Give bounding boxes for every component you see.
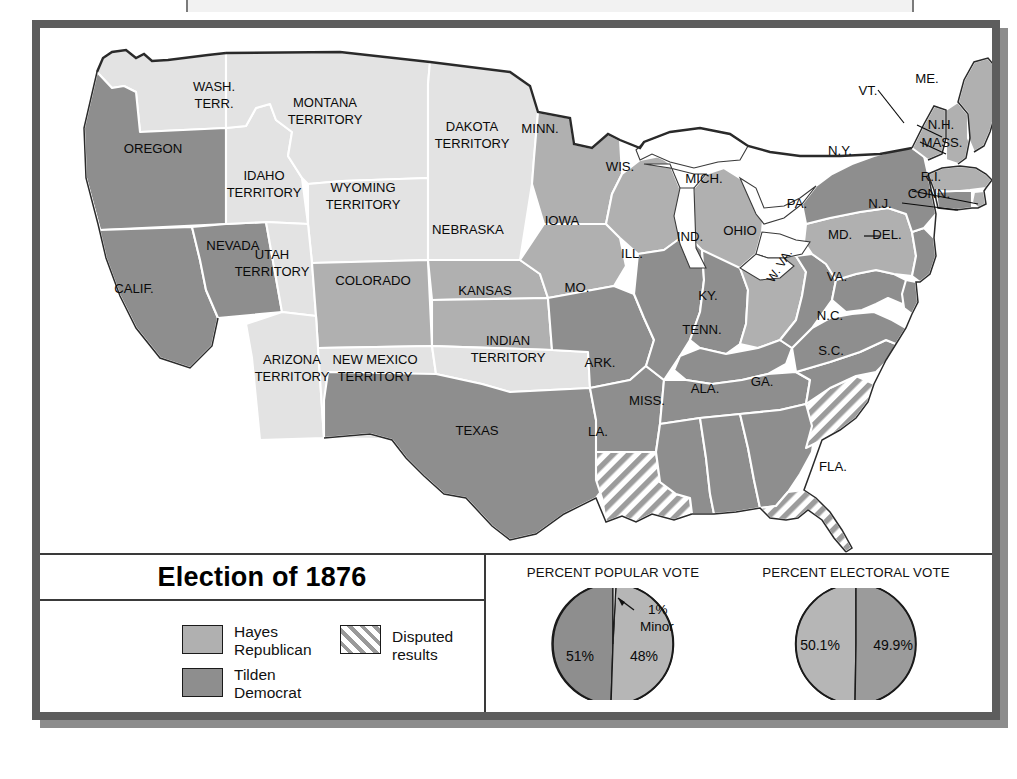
us-election-map-1876: WASH. TERR. OREGON CALIF. NEVADA IDAHO T…: [40, 28, 992, 553]
label-massachusetts: MASS.: [921, 135, 962, 150]
label-pennsylvania: PA.: [787, 196, 807, 211]
label-newmexico-line2: TERRITORY: [338, 369, 413, 384]
label-alabama-text: ALA.: [691, 381, 720, 396]
popular-vote-chart: PERCENT POPULAR VOTE 1% Minor 51%: [498, 565, 728, 704]
label-wash-terr-line1: WASH.: [193, 79, 235, 94]
label-illinois: ILL.: [621, 246, 643, 261]
label-oregon: OREGON: [124, 141, 183, 156]
label-mississippi: MISS.: [629, 393, 665, 408]
electoral-vote-chart: PERCENT ELECTORAL VOTE 50.1% 49.9%: [736, 565, 976, 704]
label-vermont: VT.: [858, 83, 877, 98]
label-maine: ME.: [915, 71, 938, 86]
label-arkansas: ARK.: [585, 355, 616, 370]
legend-swatch-disputed: [340, 625, 381, 654]
label-maryland: MD.: [828, 227, 852, 242]
label-northcarolina: N.C.: [817, 308, 843, 323]
label-montana-line1: MONTANA: [293, 95, 357, 110]
label-texas: TEXAS: [455, 423, 498, 438]
label-connecticut: CONN.: [908, 186, 951, 201]
label-louisiana: LA.: [588, 424, 608, 439]
window-title-bar: Election of 1876: [186, 0, 914, 12]
label-rhodeisland: R.I.: [921, 169, 942, 184]
label-idaho-line1: IDAHO: [243, 168, 284, 183]
legend-label-tilden: Tilden Democrat: [234, 666, 301, 701]
electoral-vote-pie: 50.1% 49.9%: [736, 588, 976, 704]
label-tennessee: TENN.: [682, 322, 722, 337]
legend-label-hayes-line2: Republican: [234, 641, 312, 659]
label-missouri: MO.: [565, 280, 590, 295]
label-minn: MINN.: [521, 121, 558, 136]
legend-label-hayes: Hayes Republican: [234, 623, 312, 658]
popular-vote-pie: 1% Minor 51% 48%: [498, 588, 728, 704]
pie-label-popular-minor-word: Minor: [640, 619, 674, 634]
label-newmexico-line1: NEW MEXICO: [332, 352, 417, 367]
legend-title-box: Election of 1876: [40, 555, 484, 601]
map-panel: WASH. TERR. OREGON CALIF. NEVADA IDAHO T…: [40, 28, 992, 553]
label-delaware: DEL.: [872, 227, 901, 242]
pie-label-popular-hayes: 48%: [630, 648, 658, 664]
legend-column: Election of 1876 Hayes Republican Tilden…: [40, 555, 486, 712]
state-new-jersey: [912, 228, 936, 282]
label-colorado: COLORADO: [335, 273, 410, 288]
pie-label-popular-minor-pct: 1%: [648, 602, 668, 617]
label-calif: CALIF.: [114, 281, 154, 296]
map-title: Election of 1876: [158, 562, 367, 593]
label-indiana: IND.: [677, 229, 703, 244]
label-arizona-line2: TERRITORY: [255, 369, 330, 384]
label-montana-line2: TERRITORY: [288, 112, 363, 127]
label-michigan: MICH.: [685, 171, 722, 186]
pie-label-electoral-hayes: 50.1%: [800, 637, 840, 653]
legend-label-tilden-line2: Democrat: [234, 684, 301, 702]
label-utah-line1: UTAH: [255, 247, 289, 262]
label-kansas: KANSAS: [458, 283, 512, 298]
legend-swatch-tilden: [182, 668, 223, 697]
label-southcarolina: S.C.: [818, 343, 844, 358]
legend-item-disputed: Disputed results: [340, 623, 484, 663]
legend-swatch-hayes: [182, 625, 223, 654]
label-nevada: NEVADA: [206, 238, 259, 253]
pie-slice-popular-tilden: [552, 588, 613, 700]
state-texas: [324, 372, 610, 540]
label-newhampshire: N.H.: [928, 117, 954, 132]
label-indian-line2: TERRITORY: [471, 350, 546, 365]
pie-label-popular-tilden: 51%: [566, 648, 594, 664]
legend-body: Hayes Republican Tilden Democrat Dispute…: [40, 601, 484, 701]
electoral-vote-caption: PERCENT ELECTORAL VOTE: [736, 565, 976, 580]
label-wyoming-line1: WYOMING: [331, 180, 396, 195]
legend-label-disputed: Disputed results: [392, 628, 484, 663]
legend-item-tilden: Tilden Democrat: [182, 666, 484, 701]
label-virginia: VA.: [827, 269, 847, 284]
label-nebraska: NEBRASKA: [432, 222, 504, 237]
legend-label-tilden-line1: Tilden: [234, 666, 301, 684]
label-newjersey: N.J.: [868, 196, 891, 211]
legend-and-charts-panel: Election of 1876 Hayes Republican Tilden…: [40, 553, 992, 712]
charts-column: PERCENT POPULAR VOTE 1% Minor 51%: [486, 555, 992, 712]
label-dakota-line1: DAKOTA: [446, 119, 499, 134]
label-wash-terr-line2: TERR.: [195, 96, 234, 111]
label-idaho-line2: TERRITORY: [227, 185, 302, 200]
label-kentucky: KY.: [698, 288, 718, 303]
pie-label-electoral-tilden: 49.9%: [873, 637, 913, 653]
label-utah-line2: TERRITORY: [235, 264, 310, 279]
label-arizona-line1: ARIZONA: [263, 352, 321, 367]
label-florida: FLA.: [819, 459, 847, 474]
label-georgia: GA.: [751, 374, 774, 389]
legend-label-hayes-line1: Hayes: [234, 623, 312, 641]
label-newyork: N.Y.: [828, 143, 852, 158]
label-dakota-line2: TERRITORY: [435, 136, 510, 151]
label-ohio: OHIO: [723, 223, 757, 238]
label-iowa: IOWA: [545, 213, 580, 228]
label-wisconsin: WIS.: [606, 159, 635, 174]
label-indian-line1: INDIAN: [486, 333, 530, 348]
popular-vote-caption: PERCENT POPULAR VOTE: [498, 565, 728, 580]
label-wyoming-line2: TERRITORY: [326, 197, 401, 212]
